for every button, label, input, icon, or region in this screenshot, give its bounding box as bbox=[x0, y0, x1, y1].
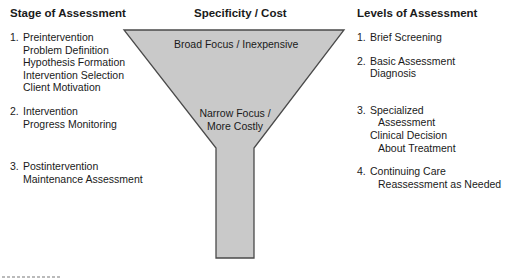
stage-item-3: 3. Postintervention Maintenance Assessme… bbox=[10, 160, 143, 185]
level-item-line: About Treatment bbox=[370, 142, 501, 155]
level-item-number: 4. bbox=[357, 165, 366, 178]
level-item-line: Assessment bbox=[370, 116, 501, 129]
stage-item-number: 2. bbox=[10, 105, 19, 118]
level-item-line: Diagnosis bbox=[370, 67, 501, 80]
level-item-4: 4. Continuing Care Reassessment as Neede… bbox=[357, 165, 501, 190]
level-item-number: 2. bbox=[357, 55, 366, 68]
level-item-line: Clinical Decision bbox=[370, 129, 501, 142]
level-item-2: 2. Basic Assessment Diagnosis bbox=[357, 55, 501, 80]
stage-item-number: 3. bbox=[10, 160, 19, 173]
level-item-number: 3. bbox=[357, 104, 366, 117]
level-item-1: 1. Brief Screening bbox=[357, 31, 501, 44]
stage-item-line: Intervention bbox=[23, 105, 143, 118]
stage-item-line: Client Motivation bbox=[23, 81, 143, 94]
level-item-line: Reassessment as Needed bbox=[370, 178, 501, 191]
stage-item-line: Intervention Selection bbox=[23, 69, 143, 82]
stage-item-line: Problem Definition bbox=[23, 44, 143, 57]
narrow-focus-line2: More Costly bbox=[185, 120, 285, 133]
narrow-focus-label: Narrow Focus / More Costly bbox=[185, 107, 285, 132]
level-item-3: 3. Specialized Assessment Clinical Decis… bbox=[357, 104, 501, 154]
stage-item-line: Hypothesis Formation bbox=[23, 56, 143, 69]
stage-list: 1. Preintervention Problem Definition Hy… bbox=[10, 31, 143, 185]
level-item-line: Continuing Care bbox=[370, 165, 501, 178]
stage-item-line: Progress Monitoring bbox=[23, 118, 143, 131]
narrow-focus-line1: Narrow Focus / bbox=[185, 107, 285, 120]
stage-item-line: Maintenance Assessment bbox=[23, 173, 143, 186]
level-item-line: Basic Assessment bbox=[370, 55, 501, 68]
stage-item-number: 1. bbox=[10, 31, 19, 44]
levels-of-assessment-heading: Levels of Assessment bbox=[357, 7, 477, 19]
stage-item-line: Postintervention bbox=[23, 160, 143, 173]
levels-list: 1. Brief Screening 2. Basic Assessment D… bbox=[357, 31, 501, 190]
stage-item-line: Preintervention bbox=[23, 31, 143, 44]
level-item-line: Brief Screening bbox=[370, 31, 501, 44]
stage-item-2: 2. Intervention Progress Monitoring bbox=[10, 105, 143, 130]
broad-focus-text: Broad Focus / Inexpensive bbox=[174, 38, 298, 50]
level-item-number: 1. bbox=[357, 31, 366, 44]
broad-focus-label: Broad Focus / Inexpensive bbox=[174, 38, 294, 51]
stage-item-1: 1. Preintervention Problem Definition Hy… bbox=[10, 31, 143, 94]
funnel-outline bbox=[124, 30, 344, 258]
stage-of-assessment-heading: Stage of Assessment bbox=[10, 7, 126, 19]
specificity-cost-heading: Specificity / Cost bbox=[194, 7, 287, 19]
level-item-line: Specialized bbox=[370, 104, 501, 117]
